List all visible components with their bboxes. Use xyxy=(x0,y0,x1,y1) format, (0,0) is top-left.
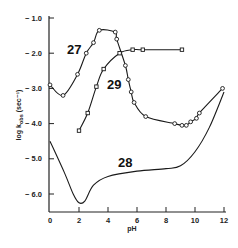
data-point-square xyxy=(102,67,105,70)
data-point-circle xyxy=(132,101,136,105)
data-point-circle xyxy=(173,122,177,126)
data-point-circle xyxy=(221,87,225,91)
svg-text:log kobs(sec⁻¹): log kobs(sec⁻¹) xyxy=(15,90,24,141)
data-point-circle xyxy=(124,64,128,68)
data-point-square xyxy=(77,129,80,132)
curve-label-28: 28 xyxy=(118,155,132,170)
data-point-circle xyxy=(189,120,193,124)
data-point-circle xyxy=(92,41,96,45)
curve-labels: 27 29 28 xyxy=(67,42,132,170)
y-tick-label: − 5.0 xyxy=(25,154,42,163)
data-point-circle xyxy=(76,72,80,76)
y-tick-label: − 2.0 xyxy=(25,49,42,58)
data-point-circle xyxy=(48,83,52,87)
data-point-circle xyxy=(115,37,119,41)
data-point-circle xyxy=(197,111,201,115)
x-ticks: 024681012 xyxy=(48,207,228,225)
x-tick-label: 12 xyxy=(220,216,228,225)
curve-label-27: 27 xyxy=(67,42,81,57)
data-point-circle xyxy=(184,123,188,127)
data-point-circle xyxy=(195,116,199,120)
data-point-square xyxy=(86,111,89,114)
series-28 xyxy=(50,92,224,204)
x-axis-title: pH xyxy=(127,225,136,233)
x-tick-label: 2 xyxy=(77,216,81,225)
y-axis-title: log kobs(sec⁻¹) xyxy=(15,90,24,141)
ph-rate-profile-chart: − 1.0− 2.0− 3.0− 4.0− 5.0− 6.0 024681012… xyxy=(0,0,238,248)
x-tick-label: 10 xyxy=(191,216,199,225)
data-point-circle xyxy=(97,28,101,32)
y-tick-label: − 4.0 xyxy=(25,119,42,128)
y-axis-title-main: log k xyxy=(15,124,23,140)
series-line-28 xyxy=(50,92,224,204)
data-point-square xyxy=(95,85,98,88)
data-point-circle xyxy=(84,51,88,55)
data-point-circle xyxy=(180,123,184,127)
y-tick-label: − 3.0 xyxy=(25,84,42,93)
y-ticks: − 1.0− 2.0− 3.0− 4.0− 5.0− 6.0 xyxy=(25,14,54,199)
data-point-square xyxy=(118,52,121,55)
data-point-circle xyxy=(113,30,117,34)
x-tick-label: 0 xyxy=(48,216,52,225)
curve-label-29: 29 xyxy=(107,77,121,92)
data-point-circle xyxy=(126,78,130,82)
data-point-square xyxy=(141,48,144,51)
x-tick-label: 8 xyxy=(164,216,168,225)
y-axis-title-units: (sec⁻¹) xyxy=(15,90,23,113)
y-tick-label: − 6.0 xyxy=(25,190,42,199)
y-tick-label: − 1.0 xyxy=(25,14,42,23)
data-point-circle xyxy=(129,90,133,94)
data-point-square xyxy=(131,48,134,51)
x-tick-label: 4 xyxy=(106,216,111,225)
x-tick-label: 6 xyxy=(135,216,139,225)
data-point-circle xyxy=(144,115,148,119)
y-axis-title-subscript: obs xyxy=(18,114,24,124)
data-point-square xyxy=(180,48,183,51)
data-point-circle xyxy=(61,94,65,98)
